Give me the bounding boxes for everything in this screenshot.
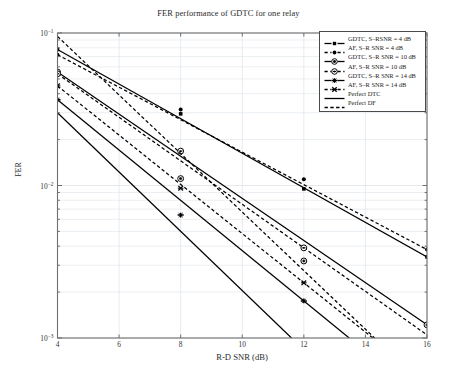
data-marker-plus bbox=[301, 299, 307, 304]
data-marker-filled-circle bbox=[179, 108, 183, 112]
data-marker-open-circle bbox=[178, 176, 184, 182]
legend-swatch-open-circle bbox=[323, 52, 346, 61]
legend-item[interactable]: AF, S–R SNR = 10 dB bbox=[323, 62, 422, 71]
legend-swatch-circle-dot bbox=[323, 62, 346, 71]
legend-item[interactable]: GDTC, S–R SNR = 14 dB bbox=[323, 71, 422, 80]
legend-item-label: GDTC, S–R SNR = 10 dB bbox=[348, 52, 416, 61]
legend-item[interactable]: GDTC, S–R SNR = 10 dB bbox=[323, 52, 422, 61]
legend-swatch-none bbox=[323, 98, 346, 107]
legend-swatch-filled-square bbox=[323, 34, 346, 43]
x-tick-label: 12 bbox=[300, 340, 307, 349]
data-marker-open-circle bbox=[301, 258, 307, 264]
y-tick-label: 10−1 bbox=[40, 28, 56, 38]
series-line bbox=[58, 86, 373, 338]
legend-swatch-filled-circle bbox=[323, 43, 346, 52]
x-tick-label: 10 bbox=[239, 340, 246, 349]
legend-item[interactable]: Perfect DF bbox=[323, 98, 422, 107]
legend-item-label: AF, S–R SNR = 4 dB bbox=[348, 43, 403, 52]
data-marker-filled-square bbox=[302, 187, 306, 191]
legend-swatch-none bbox=[323, 89, 346, 98]
data-marker-plus bbox=[178, 213, 184, 218]
legend-swatch-plus bbox=[323, 71, 346, 80]
legend-item-label: AF, S–R SNR = 14 dB bbox=[348, 80, 406, 89]
legend-item-label: AF, S–R SNR = 10 dB bbox=[348, 62, 406, 71]
data-marker-filled-square bbox=[179, 112, 183, 116]
x-tick-label: 16 bbox=[423, 340, 430, 349]
data-marker-filled-circle bbox=[302, 177, 306, 181]
x-axis-label: R-D SNR (dB) bbox=[57, 352, 427, 362]
x-tick-label: 6 bbox=[117, 340, 121, 349]
legend-swatch-x-mark bbox=[323, 80, 346, 89]
legend-item-label: Perfect DF bbox=[348, 98, 376, 107]
y-tick-label: 10−2 bbox=[40, 180, 56, 190]
legend-item[interactable]: Perfect DTC bbox=[323, 89, 422, 98]
y-tick-label: 10−3 bbox=[40, 333, 56, 343]
figure-canvas: FER performance of GDTC for one relay FE… bbox=[0, 0, 457, 372]
x-tick-label: 8 bbox=[179, 340, 183, 349]
x-tick-label: 14 bbox=[362, 340, 369, 349]
legend-item-label: Perfect DTC bbox=[348, 89, 380, 98]
legend-item[interactable]: AF, S–R SNR = 14 dB bbox=[323, 80, 422, 89]
legend-item[interactable]: GDTC, S–RSNR = 4 dB bbox=[323, 34, 422, 43]
legend-item-label: GDTC, S–RSNR = 4 dB bbox=[348, 34, 411, 43]
legend-item-label: GDTC, S–R SNR = 14 dB bbox=[348, 71, 416, 80]
data-marker-circle-dot bbox=[301, 245, 307, 251]
legend-item[interactable]: AF, S–R SNR = 4 dB bbox=[323, 43, 422, 52]
chart-legend: GDTC, S–RSNR = 4 dBAF, S–R SNR = 4 dBGDT… bbox=[319, 31, 426, 112]
